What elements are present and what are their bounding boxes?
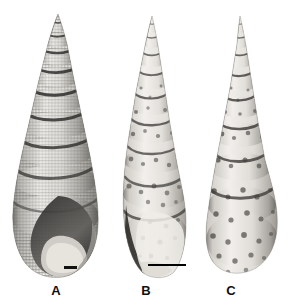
scale-bar-a xyxy=(64,266,77,269)
figure-plate: A B C xyxy=(0,0,296,306)
specimen-c-image xyxy=(0,0,296,306)
scale-bar-b xyxy=(148,264,186,266)
specimen-label-b: B xyxy=(136,284,156,298)
specimen-label-a: A xyxy=(46,284,66,298)
specimen-label-c: C xyxy=(221,284,241,298)
